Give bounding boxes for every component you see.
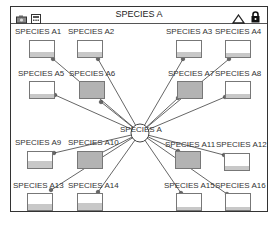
species-node-box[interactable] xyxy=(29,40,55,58)
level-fill xyxy=(226,94,250,98)
level-fill xyxy=(28,204,52,210)
species-node-box[interactable] xyxy=(176,193,202,211)
level-fill xyxy=(226,207,250,210)
species-node-box[interactable] xyxy=(224,153,250,171)
species-node-box[interactable] xyxy=(225,40,251,58)
species-node-box[interactable] xyxy=(77,151,103,169)
species-node-box[interactable] xyxy=(27,193,53,211)
species-node-label: SPECIES A4 xyxy=(215,27,261,36)
species-node-box[interactable] xyxy=(79,81,105,99)
species-node-box[interactable] xyxy=(77,40,103,58)
species-node-label: SPECIES A6 xyxy=(69,69,115,78)
species-node-label: SPECIES A9 xyxy=(15,138,61,147)
species-node-label: SPECIES A12 xyxy=(216,140,267,149)
level-fill xyxy=(177,52,201,57)
species-node-label: SPECIES A11 xyxy=(165,140,215,149)
species-node-box[interactable] xyxy=(177,81,203,99)
species-node-box[interactable] xyxy=(176,40,202,58)
species-node-box[interactable] xyxy=(27,151,53,169)
species-node-label: SPECIES A10 xyxy=(68,138,119,147)
species-node-label: SPECIES A8 xyxy=(215,69,261,78)
level-fill xyxy=(226,53,250,57)
level-fill xyxy=(177,207,201,210)
level-fill xyxy=(78,203,102,210)
species-node-box[interactable] xyxy=(225,193,251,211)
level-fill xyxy=(30,94,54,98)
level-fill xyxy=(30,52,54,57)
species-node-box[interactable] xyxy=(77,193,103,211)
species-node-label: SPECIES A1 xyxy=(15,27,61,36)
level-fill xyxy=(78,52,102,57)
center-node-label: SPECIES A xyxy=(120,125,162,134)
species-node-label: SPECIES A5 xyxy=(18,69,64,78)
link-port[interactable] xyxy=(99,100,103,104)
level-fill xyxy=(225,166,249,170)
species-node-label: SPECIES A14 xyxy=(68,181,119,190)
species-node-label: SPECIES A16 xyxy=(215,181,266,190)
level-fill xyxy=(28,161,52,168)
species-node-label: SPECIES A3 xyxy=(166,27,212,36)
species-node-label: SPECIES A15 xyxy=(164,181,215,190)
species-node-label: SPECIES A2 xyxy=(68,27,114,36)
species-node-box[interactable] xyxy=(225,81,251,99)
species-node-box[interactable] xyxy=(29,81,55,99)
species-node-box[interactable] xyxy=(175,151,201,169)
species-node-label: SPECIES A13 xyxy=(13,181,64,190)
species-node-label: SPECIES A7 xyxy=(168,69,214,78)
